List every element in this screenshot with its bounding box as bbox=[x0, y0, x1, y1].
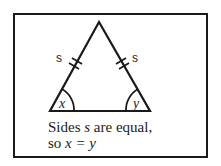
caption-line-2: so x = y bbox=[48, 135, 96, 152]
angle-label-x: x bbox=[58, 96, 66, 111]
angle-label-y: y bbox=[131, 96, 140, 111]
side-label-right: s bbox=[132, 51, 138, 65]
triangle-diagram: s s x y bbox=[0, 0, 221, 166]
caption-line-1: Sides s are equal, bbox=[48, 119, 152, 136]
side-label-left: s bbox=[56, 51, 62, 65]
